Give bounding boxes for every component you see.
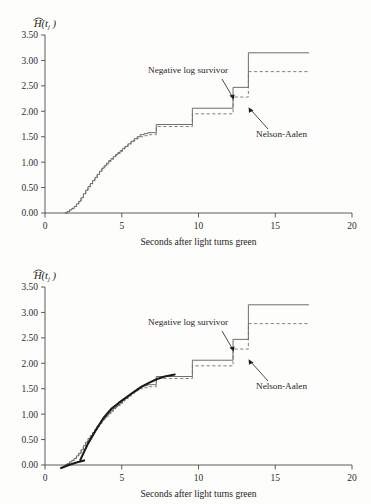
y-tick-label: 3.50: [21, 282, 38, 292]
y-tick-labels: 0.000.501.001.502.002.503.003.50: [21, 282, 38, 470]
y-axis-title-top: H(tj ): [33, 18, 57, 31]
y-axis-group-bottom: 0.000.501.001.502.002.503.003.50: [21, 282, 45, 470]
y-tick-label: 2.50: [21, 333, 38, 343]
x-tick-label: 0: [43, 221, 48, 231]
chart-panel-top: 0.000.501.001.502.002.503.003.50 0510152…: [0, 0, 371, 252]
y-tick-label: 0.00: [21, 208, 38, 218]
nelson-aalen-curve: [65, 72, 309, 213]
y-tick-marks: [41, 287, 45, 465]
x-tick-label: 20: [347, 473, 357, 483]
y-tick-label: 2.00: [21, 359, 38, 369]
x-tick-label: 0: [43, 473, 48, 483]
plot-area-top: 0.000.501.001.502.002.503.003.50 0510152…: [0, 0, 371, 252]
x-tick-label: 10: [194, 473, 204, 483]
x-tick-labels: 05101520: [43, 221, 357, 231]
arrow-icon: [229, 94, 234, 99]
x-axis-title: Seconds after light turns green: [140, 489, 256, 499]
y-tick-label: 3.00: [21, 56, 38, 66]
fitted-segment-main: [80, 374, 174, 459]
leader-line: [222, 331, 232, 348]
nelson-aalen-label: Nelson-Aalen: [256, 129, 307, 139]
x-tick-labels: 05101520: [43, 473, 357, 483]
x-tick-label: 15: [271, 221, 281, 231]
nelson-aalen-curve: [65, 324, 309, 465]
negative-log-survivor-label: Negative log survivor: [148, 317, 228, 327]
y-tick-label: 0.50: [21, 183, 38, 193]
y-axis-group-top: 0.000.501.001.502.002.503.003.50: [21, 30, 45, 218]
nelson-aalen-label: Nelson-Aalen: [256, 381, 307, 391]
y-axis-title-bottom: H(tj ): [33, 270, 57, 283]
y-tick-marks: [41, 35, 45, 213]
x-axis-group-top: 05101520: [43, 213, 357, 231]
annotation-nelson-aalen-top: Nelson-Aalen: [249, 107, 308, 139]
leader-line: [222, 79, 232, 96]
y-tick-label: 3.00: [21, 308, 38, 318]
fitted-curve-group: [61, 374, 175, 468]
x-tick-label: 5: [119, 221, 124, 231]
y-tick-label: 1.50: [21, 132, 38, 142]
x-tick-marks: [45, 465, 352, 470]
y-tick-label: 0.50: [21, 435, 38, 445]
y-tick-labels: 0.000.501.001.502.002.503.003.50: [21, 30, 38, 218]
annotation-negative-log-survivor-top: Negative log survivor: [148, 65, 235, 100]
leader-line: [251, 362, 268, 381]
x-tick-label: 10: [194, 221, 204, 231]
x-tick-marks: [45, 213, 352, 218]
y-axis-title-text: H(tj ): [33, 18, 57, 31]
y-tick-label: 1.00: [21, 158, 38, 168]
y-tick-label: 2.50: [21, 81, 38, 91]
x-tick-label: 20: [347, 221, 357, 231]
x-tick-label: 15: [271, 473, 281, 483]
annotation-negative-log-survivor-bottom: Negative log survivor: [148, 317, 235, 352]
y-tick-label: 0.00: [21, 460, 38, 470]
y-tick-label: 3.50: [21, 30, 38, 40]
arrow-icon: [229, 346, 234, 351]
plot-area-bottom: 0.000.501.001.502.002.503.003.50 0510152…: [0, 252, 371, 504]
y-tick-label: 1.00: [21, 410, 38, 420]
x-axis-title: Seconds after light turns green: [140, 237, 256, 247]
y-tick-label: 2.00: [21, 107, 38, 117]
leader-line: [251, 110, 268, 129]
negative-log-survivor-label: Negative log survivor: [148, 65, 228, 75]
y-tick-label: 1.50: [21, 384, 38, 394]
x-tick-label: 5: [119, 473, 124, 483]
fitted-segment-low: [61, 460, 84, 468]
annotation-nelson-aalen-bottom: Nelson-Aalen: [249, 359, 308, 391]
y-axis-title-text: H(tj ): [33, 270, 57, 283]
chart-panel-bottom: 0.000.501.001.502.002.503.003.50 0510152…: [0, 252, 371, 504]
x-axis-group-bottom: 05101520: [43, 465, 357, 483]
